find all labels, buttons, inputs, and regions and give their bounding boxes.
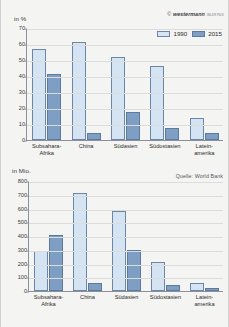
gridline <box>29 182 223 183</box>
bar-2015 <box>127 250 141 291</box>
publisher-name: westermann <box>173 11 205 17</box>
chart-poverty-absolute: in Mio. Quelle: World Bank 0100200300400… <box>1 165 229 327</box>
y-axis-tick-mark <box>27 250 29 251</box>
y-axis-tick-mark <box>27 278 29 279</box>
gridline <box>29 237 223 238</box>
category-label-line: Südostasien <box>150 294 181 300</box>
y-axis-tick-mark <box>25 29 27 30</box>
gridline <box>27 109 223 110</box>
publisher-credit: © westermann 364976X <box>167 11 224 17</box>
category-label-line: Subsahara- <box>34 294 63 300</box>
y-axis-tick-mark <box>25 141 27 142</box>
bar-2015 <box>87 133 101 140</box>
infographic-sheet: in % © westermann 364976X 1990 2015 0102… <box>0 0 229 327</box>
y-axis-tick-mark <box>27 223 29 224</box>
bar-1990 <box>151 262 165 291</box>
category-label-line: Afrika <box>41 301 56 307</box>
y-axis-tick-mark <box>27 209 29 210</box>
y-axis-tick-mark <box>27 195 29 196</box>
gridline <box>29 223 223 224</box>
bar-1990 <box>190 283 204 291</box>
category-label-line: Latein- <box>196 143 213 149</box>
y-axis-tick-mark <box>25 77 27 78</box>
gridline <box>27 29 223 30</box>
bar-2015 <box>165 128 179 140</box>
y-axis-tick-mark <box>25 109 27 110</box>
y-axis-tick-label: 400 <box>18 234 27 240</box>
x-axis-category-label: Subsahara-Afrika <box>32 143 61 157</box>
gridline <box>29 196 223 197</box>
publisher-code: 364976X <box>206 12 224 17</box>
gridline <box>27 77 223 78</box>
x-axis-category-label: Latein-amerika <box>194 143 214 157</box>
bar-2015 <box>47 74 61 140</box>
bar-2015 <box>126 112 140 140</box>
bar-1990 <box>34 251 48 291</box>
y-axis-tick-mark <box>25 61 27 62</box>
x-axis-category-label: Südostasien <box>150 294 181 301</box>
gridline <box>29 265 223 266</box>
bar-1990 <box>32 49 46 140</box>
chart-poverty-share: in % © westermann 364976X 1990 2015 0102… <box>1 0 229 165</box>
bar-2015 <box>205 288 219 291</box>
y-axis-tick-label: 300 <box>18 248 27 254</box>
x-axis-category-label: Südostasien <box>149 143 180 150</box>
bar-1990 <box>111 57 125 140</box>
copyright-icon: © <box>167 11 171 17</box>
y-axis-title-top: in % <box>14 15 26 22</box>
category-label-line: Afrika <box>39 150 54 156</box>
category-label-line: Latein- <box>196 294 213 300</box>
y-axis-tick-label: 200 <box>18 262 27 268</box>
category-label-line: Südasien <box>115 294 139 300</box>
y-axis-tick-label: 500 <box>18 220 27 226</box>
y-axis-tick-label: 800 <box>18 179 27 185</box>
category-label-line: Südostasien <box>149 143 180 149</box>
category-label-line: Subsahara- <box>32 143 61 149</box>
y-axis-tick-mark <box>25 45 27 46</box>
bar-1990 <box>73 193 87 291</box>
x-axis-category-label: China <box>80 294 95 301</box>
y-axis-tick-mark <box>25 125 27 126</box>
gridline <box>27 125 223 126</box>
category-label-line: Südasien <box>114 143 138 149</box>
plot-area-top: 010203040506070Subsahara-AfrikaChinaSüda… <box>26 29 223 141</box>
gridline <box>27 61 223 62</box>
category-label-line: China <box>80 294 95 300</box>
y-axis-tick-label: 600 <box>18 207 27 213</box>
bar-1990 <box>190 118 204 140</box>
y-axis-tick-mark <box>27 237 29 238</box>
category-label-line: amerika <box>194 301 214 307</box>
bar-2015 <box>166 285 180 291</box>
y-axis-tick-mark <box>25 93 27 94</box>
category-label-line: amerika <box>194 150 214 156</box>
gridline <box>29 278 223 279</box>
y-axis-tick-mark <box>27 264 29 265</box>
y-axis-tick-label: 700 <box>18 193 27 199</box>
bar-2015 <box>205 133 219 140</box>
y-axis-tick-label: 100 <box>18 275 27 281</box>
gridline <box>27 45 223 46</box>
y-axis-tick-mark <box>27 292 29 293</box>
x-axis-category-label: Südasien <box>114 143 138 150</box>
plot-area-bottom: 0100200300400500600700800Subsahara-Afrik… <box>28 182 223 292</box>
x-axis-category-label: Subsahara-Afrika <box>34 294 63 308</box>
x-axis-category-label: Latein-amerika <box>194 294 214 308</box>
y-axis-title-bottom: in Mio. <box>12 167 31 174</box>
x-axis-category-label: Südasien <box>115 294 139 301</box>
gridline <box>27 93 223 94</box>
y-axis-tick-mark <box>27 182 29 183</box>
gridline <box>29 251 223 252</box>
gridline <box>29 210 223 211</box>
bar-2015 <box>49 235 63 291</box>
source-label: Quelle: World Bank <box>176 173 223 179</box>
category-label-line: China <box>79 143 94 149</box>
bar-2015 <box>88 283 102 291</box>
x-axis-category-label: China <box>79 143 94 150</box>
